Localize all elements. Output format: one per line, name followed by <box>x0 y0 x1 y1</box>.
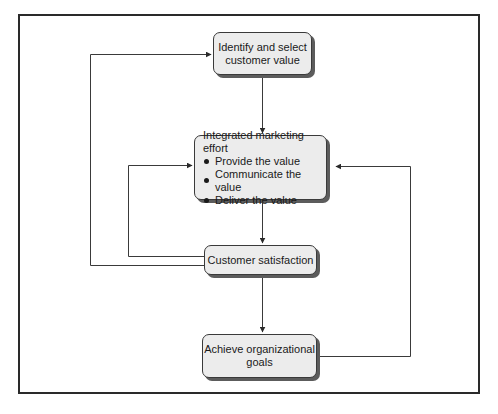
bullet-item: Communicate the value <box>203 168 326 194</box>
node-goals-line1: Achieve organizational <box>204 343 315 356</box>
node-goals-line2: goals <box>246 356 272 369</box>
bullet-text: Deliver the value <box>215 194 297 207</box>
node-integrated-bullet-list: Provide the value Communicate the value … <box>203 155 326 207</box>
bullet-item: Provide the value <box>203 155 326 168</box>
node-integrated-title: Integrated marketing effort <box>203 129 326 155</box>
node-identify-customer-value: Identify and select customer value <box>213 32 312 75</box>
bullet-text: Communicate the value <box>215 168 326 194</box>
node-satisfaction-label: Customer satisfaction <box>208 254 314 267</box>
node-identify-line1: Identify and select <box>218 41 307 54</box>
edge-loop-satisfaction-to-integrated <box>129 166 205 257</box>
node-achieve-organizational-goals: Achieve organizational goals <box>202 334 317 378</box>
node-identify-line2: customer value <box>225 54 300 67</box>
edge-loop-goals-to-integrated <box>318 167 411 357</box>
node-integrated-marketing-effort: Integrated marketing effort Provide the … <box>194 135 327 200</box>
bullet-dot-icon <box>204 159 209 164</box>
node-customer-satisfaction: Customer satisfaction <box>204 245 317 275</box>
bullet-dot-icon <box>204 178 209 183</box>
bullet-item: Deliver the value <box>203 194 326 207</box>
bullet-text: Provide the value <box>215 155 300 168</box>
edge-loop-satisfaction-to-identify <box>91 55 212 266</box>
bullet-dot-icon <box>204 198 209 203</box>
